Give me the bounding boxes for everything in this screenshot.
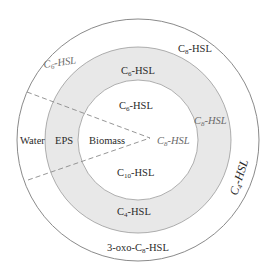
water-region-label: Water: [20, 135, 45, 146]
eps-region-label: EPS: [55, 135, 73, 146]
biofilm-layer-diagram: Water EPS Biomass C6-HSL C8-HSL C4-HSL 3…: [0, 0, 270, 270]
biomass-region-label: Biomass: [89, 135, 125, 146]
diagram-svg: Water EPS Biomass C6-HSL C8-HSL C4-HSL 3…: [0, 0, 270, 270]
